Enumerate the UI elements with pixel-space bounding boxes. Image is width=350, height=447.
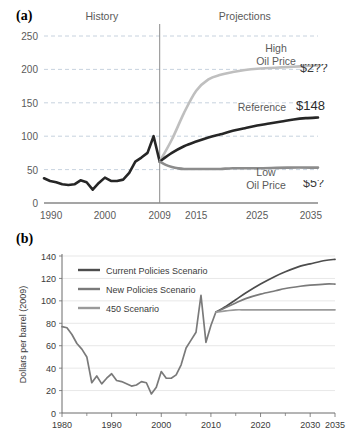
x-axis-tick-2009: 2009 bbox=[149, 210, 172, 221]
high-oil-price-value: $2?? bbox=[300, 61, 328, 75]
legend-label-1: New Policies Scenario bbox=[106, 285, 196, 295]
x-axis-tick-1980: 1980 bbox=[52, 420, 72, 430]
series-line-low-oil-price bbox=[160, 162, 318, 169]
panel-a: (a) 050100150200250199020002009201520252… bbox=[0, 0, 350, 228]
low-oil-price-value-group: $5? bbox=[303, 176, 324, 190]
series-line-reference bbox=[160, 118, 318, 162]
x-axis-tick-2010: 2010 bbox=[201, 420, 221, 430]
high-oil-price-label-line2: Oil Price bbox=[256, 55, 296, 67]
panel-b-chart: 0204060801001201401980199020002010202020… bbox=[0, 228, 350, 447]
y-axis-tick-80: 80 bbox=[46, 319, 56, 329]
series-line-450-scenario bbox=[216, 310, 335, 312]
panel-a-svg: 050100150200250199020002009201520252035H… bbox=[0, 0, 350, 228]
y-axis-tick-150: 150 bbox=[21, 98, 38, 109]
x-axis-tick-1990: 1990 bbox=[40, 210, 63, 221]
x-axis-tick-2015: 2015 bbox=[185, 210, 208, 221]
low-oil-price-value: $5? bbox=[303, 176, 324, 190]
low-oil-price-label-line1: Low bbox=[256, 166, 276, 178]
y-axis-tick-100: 100 bbox=[41, 296, 56, 306]
panel-a-chart: 050100150200250199020002009201520252035H… bbox=[0, 0, 350, 228]
x-axis-tick-2000: 2000 bbox=[94, 210, 117, 221]
y-axis-tick-100: 100 bbox=[21, 131, 38, 142]
y-axis-tick-250: 250 bbox=[21, 31, 38, 42]
projections-label: Projections bbox=[219, 10, 271, 22]
x-axis-tick-2025: 2025 bbox=[246, 210, 269, 221]
panel-b: (b) 020406080100120140198019902000201020… bbox=[0, 228, 350, 447]
y-axis-tick-60: 60 bbox=[46, 341, 56, 351]
legend-label-2: 450 Scenario bbox=[106, 304, 159, 314]
y-axis-title: Dollars per barrel (2009) bbox=[18, 286, 28, 384]
high-oil-price-value-group: $2?? bbox=[300, 61, 328, 75]
y-axis-tick-140: 140 bbox=[41, 252, 56, 262]
high-oil-price-label-line1: High bbox=[265, 42, 287, 54]
panel-b-svg: 0204060801001201401980199020002010202020… bbox=[0, 228, 350, 447]
x-axis-tick-2000: 2000 bbox=[151, 420, 171, 430]
series-line-new-policies-scenario bbox=[216, 284, 335, 312]
reference-label: Reference bbox=[238, 101, 287, 113]
y-axis-tick-50: 50 bbox=[27, 165, 39, 176]
y-axis-tick-0: 0 bbox=[51, 409, 56, 419]
low-oil-price-label-line2: Oil Price bbox=[246, 179, 286, 191]
legend-label-0: Current Policies Scenario bbox=[106, 266, 208, 276]
y-axis-tick-0: 0 bbox=[32, 198, 38, 209]
y-axis-tick-40: 40 bbox=[46, 364, 56, 374]
x-axis-tick-2035: 2035 bbox=[325, 420, 345, 430]
x-axis-tick-1990: 1990 bbox=[102, 420, 122, 430]
y-axis-tick-20: 20 bbox=[46, 386, 56, 396]
y-axis-tick-120: 120 bbox=[41, 274, 56, 284]
reference-value: $148 bbox=[296, 98, 325, 113]
x-axis-tick-2030: 2030 bbox=[300, 420, 320, 430]
x-axis-tick-2020: 2020 bbox=[251, 420, 271, 430]
history-label: History bbox=[86, 10, 119, 22]
y-axis-tick-200: 200 bbox=[21, 64, 38, 75]
series-line-history bbox=[44, 136, 160, 189]
x-axis-tick-2035: 2035 bbox=[300, 210, 323, 221]
